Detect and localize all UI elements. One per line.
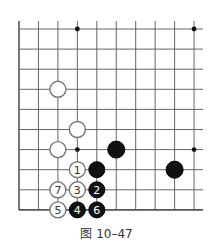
white-stone: 1 [69,162,85,178]
star-point-icon [192,27,197,32]
move-number: 3 [74,184,81,197]
white-stone: 5 [50,202,66,218]
move-number: 5 [54,204,61,217]
move-number: 6 [93,204,100,217]
move-number: 2 [93,184,100,197]
white-stone [50,81,66,97]
black-stone: 2 [89,182,105,198]
star-point-icon [75,27,80,32]
black-stone [89,162,105,178]
black-stone [108,141,125,158]
move-number: 7 [54,184,61,197]
move-number: 1 [74,164,81,177]
white-stone: 7 [50,182,66,198]
white-stone [69,122,85,138]
go-board: 1732546 [0,0,213,251]
figure-caption: 图 10–47 [0,224,213,241]
white-stone [50,142,66,158]
star-point-icon [75,147,80,152]
star-point-icon [192,147,197,152]
black-stone: 4 [69,202,85,218]
white-stone: 3 [69,182,85,198]
black-stone [166,161,183,178]
black-stone: 6 [89,202,105,218]
move-number: 4 [74,204,81,217]
